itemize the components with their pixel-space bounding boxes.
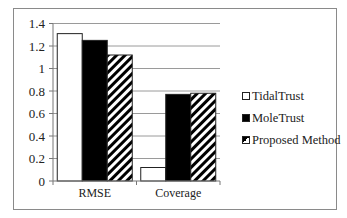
bar-moletrust-coverage: [166, 94, 191, 181]
legend-item-tidaltrust: TidalTrust: [242, 85, 341, 107]
y-tick-label: 0.6: [29, 106, 46, 121]
y-tick-label: 0.8: [29, 84, 45, 99]
bar-tidaltrust-coverage: [141, 168, 166, 182]
y-axis-ticks: 00.20.40.60.811.21.4: [29, 16, 53, 189]
white-swatch-icon: [242, 92, 250, 100]
legend-label: TidalTrust: [252, 89, 304, 104]
y-tick-label: 1.4: [29, 16, 46, 31]
y-tick-label: 1.2: [29, 39, 45, 54]
y-tick-label: 1: [39, 61, 46, 76]
bar-moletrust-rmse: [82, 40, 107, 181]
y-tick-label: 0: [39, 174, 46, 189]
y-tick-label: 0.2: [29, 151, 45, 166]
bar-tidaltrust-rmse: [57, 34, 82, 181]
bar-proposed-method-rmse: [107, 55, 132, 181]
legend-label: MoleTrust: [252, 111, 304, 126]
y-tick-label: 0.4: [29, 129, 46, 144]
legend: TidalTrust MoleTrust Proposed Method: [242, 85, 341, 151]
x-category-label: RMSE: [78, 186, 111, 200]
black-swatch-icon: [242, 114, 250, 122]
category-labels: RMSECoverage: [78, 186, 201, 200]
bar-proposed-method-coverage: [191, 93, 216, 181]
hatched-swatch-icon: [242, 136, 250, 144]
legend-item-moletrust: MoleTrust: [242, 107, 341, 129]
legend-item-proposed-method: Proposed Method: [242, 129, 341, 151]
x-category-label: Coverage: [155, 186, 201, 200]
legend-label: Proposed Method: [252, 133, 341, 148]
